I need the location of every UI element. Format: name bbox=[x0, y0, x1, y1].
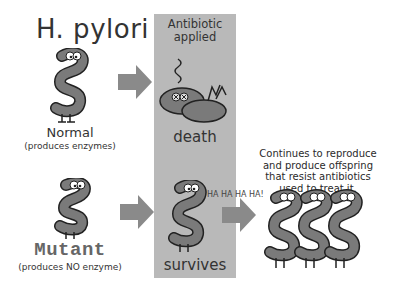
normal-sublabel: (produces enzymes) bbox=[4, 141, 136, 151]
bacterium-dead-icon bbox=[158, 55, 234, 127]
bacterium-normal-icon bbox=[48, 48, 92, 124]
mutant-sublabel: (produces NO enzyme) bbox=[4, 262, 136, 272]
panel-label-line2: applied bbox=[154, 31, 236, 44]
antibiotic-panel-label: Antibiotic applied bbox=[154, 18, 236, 44]
arrow-right-icon bbox=[118, 65, 152, 99]
description-line3: that resist antibiotics bbox=[240, 171, 396, 183]
description-line1: Continues to reproduce bbox=[240, 148, 396, 160]
survives-label: survives bbox=[154, 256, 236, 274]
bacterium-mutant-icon bbox=[52, 178, 96, 240]
arrow-right-icon bbox=[222, 198, 256, 232]
arrow-right-icon bbox=[120, 195, 154, 229]
diagram-title: H. pylori bbox=[36, 14, 149, 44]
mutant-label: Mutant bbox=[4, 239, 136, 261]
bacterium-survivor-icon bbox=[166, 180, 210, 254]
bacteria-offspring-icon bbox=[262, 188, 372, 272]
description-line2: and produce offspring bbox=[240, 160, 396, 172]
normal-label: Normal bbox=[10, 125, 130, 140]
death-label: death bbox=[154, 128, 236, 146]
